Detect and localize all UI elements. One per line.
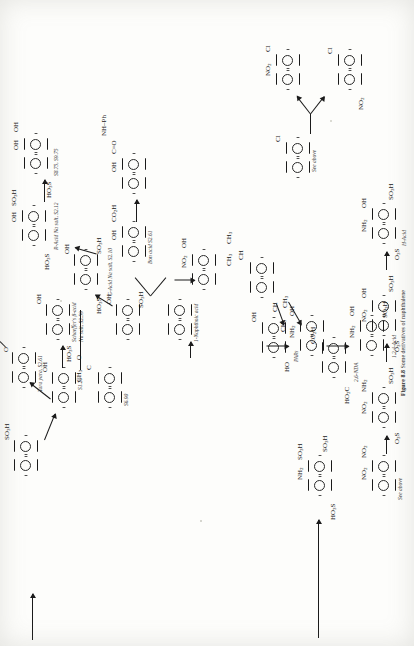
- label-so3h: SO3H: [96, 237, 103, 254]
- label-oh: OH: [36, 294, 43, 304]
- label-s690: S6.90: [124, 394, 130, 406]
- structure-g-acid: OH SO3H HO3S G-Acid Na salt, S2.10: [74, 256, 96, 290]
- label-ch3: CH3: [226, 232, 233, 244]
- label-see-above-1: See above: [398, 478, 404, 500]
- label-co2h: CO2H: [111, 205, 118, 222]
- label-no2: NO2: [361, 401, 368, 414]
- label-cl: Cl: [275, 135, 282, 142]
- label-cl: Cl: [327, 47, 334, 54]
- label-yara-yara: Yara yara, S2.61: [38, 355, 44, 392]
- structure-r-acid: OH SO3H HO3S R-Acid Na salt, S2.12: [22, 212, 44, 246]
- label-no2: NO2: [361, 309, 368, 322]
- label-so3h: SO3H: [4, 423, 11, 440]
- label-oh: OH: [11, 212, 18, 222]
- structure-1-chloronaphthalene: Cl See above: [286, 144, 308, 178]
- label-so3h: SO3H: [322, 435, 329, 452]
- scan-speck: [200, 520, 202, 522]
- label-nh-ph: NH–Ph: [101, 115, 108, 136]
- label-ho3s: HO3S: [330, 503, 337, 520]
- arrow-to-2-naphthol: [44, 414, 55, 440]
- bond-cl-branch-stem: [310, 114, 311, 134]
- label-no2: NO2: [361, 467, 368, 480]
- label-g-acid: G-Acid Na salt, S2.10: [108, 248, 114, 296]
- label-so3h: SO3H: [138, 291, 145, 308]
- label-so3h: SO3H: [11, 189, 18, 206]
- arrow-in-2: [318, 520, 319, 638]
- scan-speck: [330, 120, 332, 122]
- arrow-to-nitro-amino: [386, 436, 387, 454]
- arrow-in-1: [32, 594, 33, 640]
- figure-caption-text: Some derivatives of naphthalene: [400, 290, 406, 368]
- structure-yara-yara: O Me Yara yara, S2.61: [12, 354, 34, 388]
- label-schaeffer: Schaeffer's β-acid: [72, 302, 78, 342]
- structure-1-nitroso-2-naphthol: NO2 OH: [192, 256, 214, 290]
- bond-branch-node: [80, 310, 81, 370]
- label-h-acid: H-Acid: [402, 230, 408, 246]
- structure-chloro-nitronaphthalene-a: NO2 Cl: [276, 56, 298, 90]
- structure-1-acetylnaphthalene: C O CH3 S6.90: [98, 374, 120, 408]
- structure-h-acid: NH2 OH SO3H O3S H-Acid: [372, 210, 394, 244]
- arrow-to-chloronitro-b: [310, 96, 324, 114]
- label-r-acid: R-Acid Na salt, S2.12: [54, 202, 60, 250]
- structure-chloro-nitronaphthalene-b: Cl NO2: [338, 56, 360, 90]
- reaction-scheme-canvas: SO3H OH S1.20 O Me Yara yara, S2.61: [0, 0, 414, 646]
- structure-dihydroxynaphthalene-sulfonic: OH OH HO3S S8.75, S9.75: [24, 140, 46, 174]
- label-o-ether: O: [3, 347, 10, 352]
- label-oh: OH: [13, 140, 20, 150]
- arrow-to-amino-naphthol: [267, 346, 289, 347]
- structure-amino-naphthalenetrisulfonic-acid: NH2 SO3H SO3H HO3S: [308, 462, 330, 496]
- label-c-o: C=O: [111, 140, 118, 154]
- structure-1-naphthol-4-sulfonic-acid: OH SO3H: [116, 306, 138, 340]
- label-s8-s9: S8.75, S9.75: [54, 149, 60, 177]
- structure-2-6-nda: CO2H HO2C 2,6-NDA: [322, 344, 344, 378]
- structure-nitro-hydroxy-naphthalenedisulfonic: NO2 OH SO3H O3S: [372, 302, 394, 336]
- structure-naphthalene-2-sulfonic-acid: SO3H: [14, 442, 36, 476]
- label-nda: 2,6-NDA: [354, 362, 360, 382]
- structure-schaeffers-beta-acid: OH HO3S Schaeffer's β-acid Na salt, S2.5…: [46, 306, 68, 340]
- label-oh: OH: [64, 244, 71, 254]
- label-nh2: NH2: [289, 325, 296, 338]
- label-ho3s: HO3S: [46, 181, 53, 198]
- structure-nitro-amino-naphthalenedisulfonic: NO2 NH2 SO3H O3S: [372, 394, 394, 428]
- structure-2-naphthol: OH S1.20: [52, 374, 74, 408]
- structure-1-8-dinitronaphthalene: NO2 NO2 See above: [372, 462, 394, 496]
- arrow-to-schaeffer: [62, 346, 63, 368]
- arrow-to-nitro-hydroxy: [386, 344, 387, 362]
- label-oh: OH: [289, 306, 296, 316]
- structure-1-amino-2-naphthol: NH2 OH: [300, 322, 322, 356]
- label-nh2: NH2: [361, 219, 368, 232]
- structure-1-naphthoic-acid: 1-Naphthoic acid: [168, 306, 190, 340]
- label-cl: Cl: [265, 45, 272, 52]
- label-no2: NO2: [361, 445, 368, 458]
- label-ch3: CH3: [226, 254, 233, 266]
- figure-caption: Figure 8.8 Some derivatives of naphthale…: [400, 290, 406, 396]
- label-oh: OH: [111, 162, 118, 172]
- label-ho: HO: [284, 362, 291, 372]
- label-acetyl-c: C: [86, 365, 93, 370]
- label-ho2c: HO2C: [344, 387, 351, 404]
- label-oh: OH: [361, 198, 368, 208]
- arrow-to-chloronitro-a: [297, 96, 311, 114]
- label-ho3s: HO3S: [44, 253, 51, 270]
- arrow-to-124-acid: [327, 346, 349, 347]
- label-o3s: O3S: [394, 433, 401, 444]
- structure-diisopropylnaphthalene: CH CH3 CH3 CH CH3 CH3: [250, 264, 272, 298]
- structure-bon-acid: OH CO2H Bon acid S2.61: [122, 228, 144, 262]
- label-no2: NO2: [358, 97, 365, 110]
- label-so3h: SO3H: [388, 183, 395, 200]
- scan-speck: [60, 300, 62, 302]
- figure-number: Figure 8.8: [400, 370, 406, 396]
- label-pars: PARs: [294, 350, 300, 362]
- bond-v-lower: [150, 277, 166, 296]
- label-oh: OH: [13, 122, 20, 132]
- label-see-above-2: See above: [312, 150, 318, 172]
- label-bon-acid: Bon acid S2.61: [148, 231, 154, 264]
- label-so3h: SO3H: [388, 367, 395, 384]
- label-nh2: NH2: [349, 325, 356, 338]
- label-ho3s: HO3S: [96, 297, 103, 314]
- label-so3h: SO3H: [297, 443, 304, 460]
- structure-naphthol-as-anilide: OH C=O NH–Ph: [122, 160, 144, 194]
- label-ch-upper: CH: [238, 250, 245, 260]
- arrow-to-naphthoic: [190, 342, 191, 358]
- label-no2: NO2: [265, 63, 272, 76]
